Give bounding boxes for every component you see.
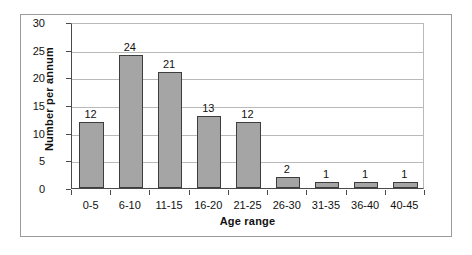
bar-value-label: 21 — [147, 59, 191, 70]
y-axis-tick-label: 5 — [5, 156, 45, 167]
x-axis-tick-mark — [306, 190, 307, 195]
x-axis-tick-label: 40-45 — [385, 200, 424, 211]
x-axis-tick-label: 11-15 — [149, 200, 188, 211]
x-axis-tick-label: 6-10 — [110, 200, 149, 211]
bar — [197, 116, 221, 188]
y-axis-tick-label: 25 — [5, 46, 45, 57]
bar — [236, 122, 260, 188]
gridline — [72, 24, 423, 25]
x-axis-tick-mark — [424, 190, 425, 195]
x-axis-tick-label: 36-40 — [346, 200, 385, 211]
bar-value-label: 2 — [265, 164, 309, 175]
x-axis-tick-label: 21-25 — [228, 200, 267, 211]
x-axis-tick-label: 31-35 — [306, 200, 345, 211]
y-axis-tick-label: 20 — [5, 73, 45, 84]
chart-frame: Number per annum 302520151050 0-56-1011-… — [20, 14, 452, 237]
bar — [158, 72, 182, 188]
x-axis-tick-mark — [149, 190, 150, 195]
bar-value-label: 13 — [186, 103, 230, 114]
bar-value-label: 1 — [343, 169, 387, 180]
bar — [119, 55, 143, 188]
x-axis-tick-mark — [189, 190, 190, 195]
bar — [393, 182, 417, 188]
bar — [315, 182, 339, 188]
x-axis-tick-mark — [110, 190, 111, 195]
x-axis-tick-mark — [346, 190, 347, 195]
bar-value-label: 12 — [225, 109, 269, 120]
y-axis-tick-label: 10 — [5, 129, 45, 140]
x-axis-tick-mark — [267, 190, 268, 195]
bar — [354, 182, 378, 188]
bar-value-label: 24 — [108, 42, 152, 53]
x-axis-title: Age range — [71, 215, 424, 227]
bar — [79, 122, 103, 188]
x-axis-tick-label: 16-20 — [189, 200, 228, 211]
y-axis-tick-label: 0 — [5, 184, 45, 195]
bar-value-label: 1 — [382, 169, 426, 180]
x-axis-tick-label: 26-30 — [267, 200, 306, 211]
bar-value-label: 12 — [68, 109, 112, 120]
x-axis-tick-mark — [228, 190, 229, 195]
y-axis-tick-label: 30 — [5, 18, 45, 29]
x-axis-tick-mark — [385, 190, 386, 195]
gridline — [72, 190, 423, 191]
x-axis-tick-mark — [71, 190, 72, 195]
bar — [276, 177, 300, 188]
bar-value-label: 1 — [304, 169, 348, 180]
y-axis-tick-label: 15 — [5, 101, 45, 112]
chart-figure: Number per annum 302520151050 0-56-1011-… — [0, 0, 472, 255]
x-axis-tick-label: 0-5 — [71, 200, 110, 211]
